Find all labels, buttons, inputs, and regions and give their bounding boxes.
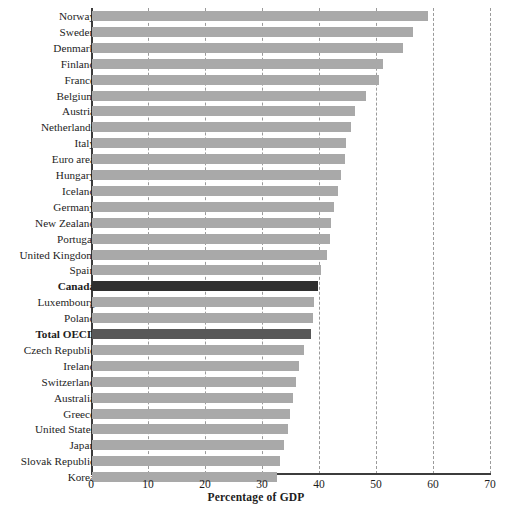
bar — [92, 186, 338, 196]
bar — [92, 170, 341, 180]
bar — [92, 138, 346, 148]
bar — [92, 265, 321, 275]
category-label: France — [0, 72, 95, 88]
category-label: Austria — [0, 103, 95, 119]
category-label: Total OECD — [0, 326, 95, 342]
bar-row: Portugal — [0, 231, 512, 247]
bar — [92, 424, 288, 434]
bar — [92, 234, 330, 244]
bar-row: Poland — [0, 310, 512, 326]
x-tick-label: 20 — [199, 477, 211, 491]
category-label: Germany — [0, 199, 95, 215]
category-label: Luxembourg — [0, 294, 95, 310]
bar-row: Japan — [0, 437, 512, 453]
bar — [92, 329, 311, 339]
bar-row: Italy — [0, 135, 512, 151]
x-tick-label: 50 — [370, 477, 382, 491]
bar-row: Switzerland — [0, 374, 512, 390]
category-label: Poland — [0, 310, 95, 326]
bar-row: Austria — [0, 103, 512, 119]
bar — [92, 313, 313, 323]
x-tick-label: 60 — [427, 477, 439, 491]
bar-row: Spain — [0, 262, 512, 278]
category-label: Japan — [0, 437, 95, 453]
bar-row: Sweden — [0, 24, 512, 40]
bar — [92, 122, 351, 132]
bar — [92, 409, 290, 419]
category-label: Korea — [0, 469, 95, 485]
bar-row: Norway — [0, 8, 512, 24]
bar — [92, 440, 284, 450]
bar — [92, 154, 345, 164]
bar — [92, 297, 314, 307]
category-label: Finland — [0, 56, 95, 72]
bar-row: Netherlands — [0, 119, 512, 135]
x-tick-label: 0 — [88, 477, 94, 491]
bar-row: Slovak Republic — [0, 453, 512, 469]
bar — [92, 75, 379, 85]
bar-row: Luxembourg — [0, 294, 512, 310]
category-label: Netherlands — [0, 119, 95, 135]
bar-row: France — [0, 72, 512, 88]
bar-row: Greece — [0, 406, 512, 422]
bar-row: Canada — [0, 278, 512, 294]
bar-row: Belgium — [0, 88, 512, 104]
bar — [92, 43, 403, 53]
category-label: United Kingdom — [0, 247, 95, 263]
bar-row: Total OECD — [0, 326, 512, 342]
category-label: Greece — [0, 406, 95, 422]
bar-row: Czech Republic — [0, 342, 512, 358]
bar-row: Finland — [0, 56, 512, 72]
bar — [92, 250, 327, 260]
bar — [92, 377, 296, 387]
category-label: Denmark — [0, 40, 95, 56]
category-label: Switzerland — [0, 374, 95, 390]
category-label: Canada — [0, 278, 95, 294]
category-label: Hungary — [0, 167, 95, 183]
bar — [92, 11, 428, 21]
category-label: Sweden — [0, 24, 95, 40]
category-label: United States — [0, 421, 95, 437]
bar-row: Iceland — [0, 183, 512, 199]
category-label: Australia — [0, 390, 95, 406]
x-tick-label: 40 — [313, 477, 325, 491]
category-label: Belgium — [0, 88, 95, 104]
category-label: Portugal — [0, 231, 95, 247]
category-label: New Zealand — [0, 215, 95, 231]
bar-row: Australia — [0, 390, 512, 406]
bar — [92, 472, 277, 482]
bar-row: United Kingdom — [0, 247, 512, 263]
category-label: Iceland — [0, 183, 95, 199]
category-label: Slovak Republic — [0, 453, 95, 469]
bar — [92, 393, 293, 403]
category-label: Ireland — [0, 358, 95, 374]
bar — [92, 281, 318, 291]
x-tick-label: 30 — [256, 477, 268, 491]
bar — [92, 345, 304, 355]
bar-row: United States — [0, 421, 512, 437]
bar-row: Germany — [0, 199, 512, 215]
bar-chart: NorwaySwedenDenmarkFinlandFranceBelgiumA… — [0, 0, 512, 506]
bar — [92, 361, 299, 371]
bar-row: Hungary — [0, 167, 512, 183]
bar — [92, 91, 366, 101]
bar — [92, 218, 331, 228]
bar-row: New Zealand — [0, 215, 512, 231]
bar — [92, 456, 280, 466]
x-tick-label: 70 — [484, 477, 496, 491]
bar-row: Euro area — [0, 151, 512, 167]
category-label: Norway — [0, 8, 95, 24]
bar — [92, 27, 413, 37]
bar-row: Denmark — [0, 40, 512, 56]
bar — [92, 202, 334, 212]
bar-row: Ireland — [0, 358, 512, 374]
x-axis-title: Percentage of GDP — [0, 491, 512, 503]
category-label: Spain — [0, 262, 95, 278]
bar — [92, 106, 355, 116]
category-label: Italy — [0, 135, 95, 151]
bar — [92, 59, 383, 69]
x-tick-label: 10 — [142, 477, 154, 491]
category-label: Czech Republic — [0, 342, 95, 358]
category-label: Euro area — [0, 151, 95, 167]
